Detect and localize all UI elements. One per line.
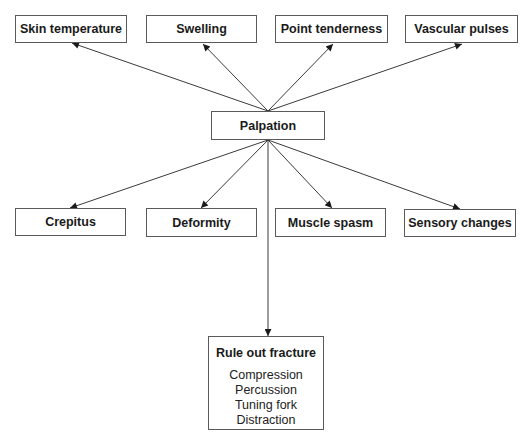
node-label: Swelling — [176, 22, 227, 36]
fracture-test-item: Distraction — [236, 413, 295, 428]
node-label: Point tenderness — [281, 22, 382, 36]
node-title: Rule out fracture — [216, 346, 316, 360]
edge-to-sensory-changes — [268, 140, 460, 209]
node-label: Skin temperature — [20, 22, 122, 36]
fracture-test-item: Percussion — [235, 383, 297, 398]
fracture-test-item: Compression — [229, 368, 303, 383]
edge-to-vascular-pulses — [268, 44, 462, 111]
diagram-canvas: Skin temperature Swelling Point tenderne… — [0, 0, 530, 447]
node-sensory-changes: Sensory changes — [404, 209, 516, 237]
node-point-tenderness: Point tenderness — [275, 15, 388, 43]
edge-to-skin-temperature — [72, 43, 268, 111]
edge-to-crepitus — [70, 140, 268, 208]
node-label: Muscle spasm — [288, 216, 373, 230]
node-skin-temperature: Skin temperature — [15, 15, 127, 43]
node-label: Crepitus — [45, 215, 96, 229]
edge-to-muscle-spasm — [268, 140, 332, 208]
node-crepitus: Crepitus — [15, 208, 126, 236]
node-rule-out-fracture: Rule out fracture Compression Percussion… — [208, 336, 324, 430]
node-label: Sensory changes — [408, 216, 512, 230]
node-label: Palpation — [240, 119, 296, 133]
node-deformity: Deformity — [146, 208, 257, 237]
node-swelling: Swelling — [146, 15, 257, 43]
node-vascular-pulses: Vascular pulses — [405, 15, 518, 43]
node-muscle-spasm: Muscle spasm — [275, 208, 386, 237]
edge-to-swelling — [203, 44, 268, 111]
edge-to-deformity — [201, 140, 268, 208]
node-label: Deformity — [172, 216, 230, 230]
node-palpation: Palpation — [211, 111, 325, 140]
node-label: Vascular pulses — [414, 22, 509, 36]
fracture-test-item: Tuning fork — [235, 398, 297, 413]
edge-to-point-tenderness — [268, 44, 333, 111]
